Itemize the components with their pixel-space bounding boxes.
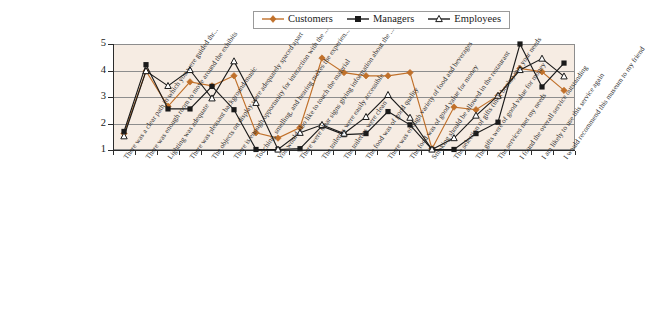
x-axis-category-labels: There was a clear path in which you were…	[0, 0, 593, 331]
chart-root: Customers Managers Employees	[0, 0, 593, 331]
